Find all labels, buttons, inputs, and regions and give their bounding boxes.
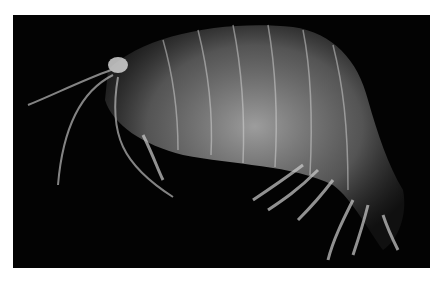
- amphipod-photo: [13, 15, 430, 268]
- amphipod-illustration: [13, 15, 430, 268]
